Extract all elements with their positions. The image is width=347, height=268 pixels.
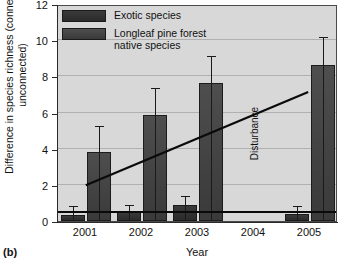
error-cap-exotic-2001	[69, 206, 78, 207]
x-tick-label: 2003	[185, 226, 209, 238]
error-cap-exotic-2003	[181, 196, 190, 197]
x-axis-title: Year	[57, 246, 337, 258]
legend-label-exotic: Exotic species	[114, 9, 181, 21]
legend-label-native: Longleaf pine forest native species	[114, 27, 206, 51]
figure-panel-b: Difference in species richness (connecte…	[0, 0, 347, 268]
error-cap-native-2003	[207, 56, 216, 57]
y-tick-label: 6	[42, 108, 48, 120]
y-tick-mark	[52, 186, 57, 187]
error-bar-native-2002	[155, 89, 156, 221]
gridline	[58, 75, 336, 76]
y-tick-mark	[52, 5, 57, 6]
y-tick-label: 4	[42, 144, 48, 156]
error-bar-exotic-2001	[73, 207, 74, 221]
y-tick-mark	[52, 41, 57, 42]
error-bar-exotic-2005	[297, 207, 298, 221]
y-tick-mark	[52, 222, 57, 223]
error-cap-exotic-2005	[293, 206, 302, 207]
gridline	[58, 112, 336, 113]
error-bar-native-2003	[211, 57, 212, 221]
y-tick-mark	[52, 77, 57, 78]
x-tick-label: 2002	[129, 226, 153, 238]
disturbance-annotation: Disturbance	[249, 98, 260, 170]
error-cap-native-2002	[151, 88, 160, 89]
y-axis-title: Difference in species richness (connecte…	[3, 0, 29, 175]
trend-line-segment	[86, 92, 308, 185]
error-bar-native-2005	[323, 38, 324, 221]
legend-swatch-native-icon	[62, 28, 106, 40]
y-axis-line	[57, 5, 58, 223]
legend: Exotic species Longleaf pine forest nati…	[62, 9, 206, 51]
legend-item-native: Longleaf pine forest native species	[62, 27, 206, 51]
y-tick-label: 8	[42, 71, 48, 83]
legend-swatch-exotic-icon	[62, 10, 106, 22]
error-cap-exotic-2002	[125, 205, 134, 206]
error-cap-native-2005	[319, 37, 328, 38]
y-tick-label: 2	[42, 180, 48, 192]
legend-item-exotic: Exotic species	[62, 9, 206, 22]
y-tick-mark	[52, 150, 57, 151]
y-tick-label: 0	[42, 216, 48, 228]
error-bar-native-2001	[99, 127, 100, 221]
error-bar-exotic-2003	[185, 197, 186, 221]
error-cap-native-2001	[95, 126, 104, 127]
x-axis-line	[57, 222, 338, 223]
x-tick-label: 2005	[297, 226, 321, 238]
y-tick-label: 12	[36, 0, 48, 11]
panel-label: (b)	[3, 246, 17, 258]
y-tick-label: 10	[36, 35, 48, 47]
y-tick-mark	[52, 114, 57, 115]
x-tick-label: 2004	[241, 226, 265, 238]
error-bar-exotic-2002	[129, 206, 130, 221]
x-tick-label: 2001	[73, 226, 97, 238]
